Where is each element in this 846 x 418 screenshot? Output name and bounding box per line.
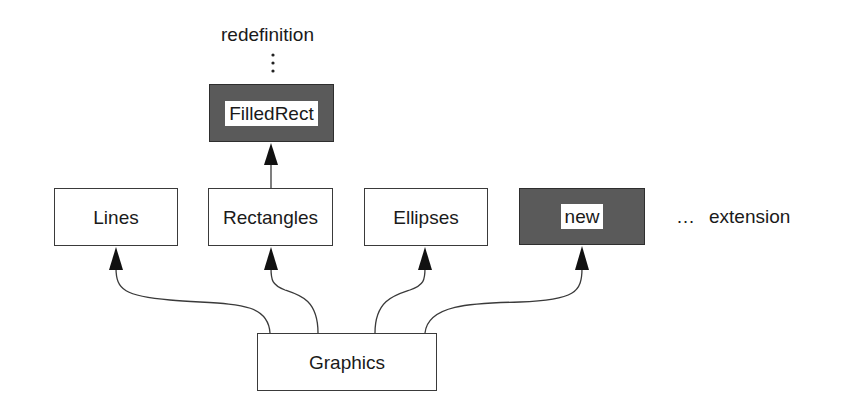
dotted-ellipsis-vertical bbox=[271, 53, 274, 72]
node-ellipses: Ellipses bbox=[364, 188, 488, 246]
node-ellipses-label: Ellipses bbox=[393, 208, 458, 227]
node-lines: Lines bbox=[54, 188, 178, 246]
edge-graphics-to-new bbox=[425, 246, 589, 333]
node-filledrect: FilledRect bbox=[209, 84, 334, 142]
node-new-label: new bbox=[561, 204, 604, 229]
extension-ellipsis: … bbox=[676, 206, 695, 228]
node-graphics-label: Graphics bbox=[309, 353, 385, 372]
node-lines-label: Lines bbox=[93, 208, 138, 227]
extension-label: extension bbox=[709, 206, 790, 228]
node-graphics: Graphics bbox=[257, 333, 437, 391]
edge-graphics-to-ellipses bbox=[375, 247, 432, 333]
node-rectangles-label: Rectangles bbox=[223, 208, 318, 227]
redefinition-label: redefinition bbox=[221, 24, 314, 46]
node-new: new bbox=[519, 188, 645, 245]
edge-graphics-to-rectangles bbox=[264, 247, 318, 333]
edge-rectangles-to-filledrect bbox=[264, 143, 278, 188]
node-filledrect-label: FilledRect bbox=[225, 101, 317, 126]
edge-graphics-to-lines bbox=[109, 247, 270, 333]
node-rectangles: Rectangles bbox=[208, 188, 333, 246]
